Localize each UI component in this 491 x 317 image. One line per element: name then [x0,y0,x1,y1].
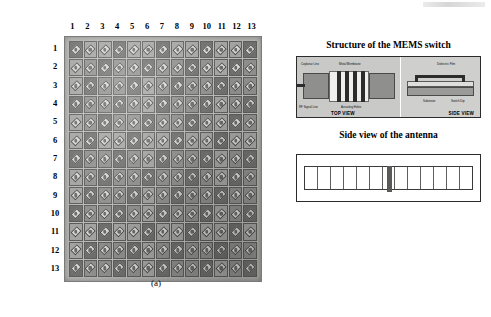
unit-cell [200,132,214,149]
unit-cell [113,205,127,222]
unit-cell [113,242,127,259]
antenna-element-tick [421,167,434,189]
column-number-strip: 1 2 3 4 5 6 7 8 9 10 11 12 13 [65,20,259,33]
mems-switch-figure: Coplanar Line Metal Membrane RF Signal L… [296,56,481,118]
unit-cell [243,150,257,167]
unit-cell [142,96,156,113]
unit-cell [69,169,83,186]
unit-cell [214,187,228,204]
antenna-element-tick [395,167,408,189]
unit-cell [69,187,83,204]
column-label: 3 [95,20,110,33]
unit-cell [69,132,83,149]
unit-cell [127,114,141,131]
unit-cell [142,132,156,149]
unit-cell [142,169,156,186]
unit-cell [243,187,257,204]
unit-cell [200,59,214,76]
unit-cell [127,96,141,113]
callout-actuating-holes: Actuating Holes [341,105,361,109]
unit-cell [200,187,214,204]
unit-cell [243,59,257,76]
unit-cell [127,260,141,277]
antenna-element-tick [408,167,421,189]
panel-a-reflectarray: 1 2 3 4 5 6 7 8 9 10 11 12 13 1 2 3 4 5 … [18,6,258,296]
unit-cell [113,114,127,131]
antenna-element-tick [331,167,344,189]
unit-cell [185,187,199,204]
unit-cell [69,150,83,167]
row-label: 1 [48,39,62,57]
row-number-strip: 1 2 3 4 5 6 7 8 9 10 11 12 13 [48,39,62,277]
column-label: 13 [244,20,259,33]
column-label: 2 [80,20,95,33]
unit-cell [84,96,98,113]
membrane-beam [415,75,465,78]
unit-cell [171,96,185,113]
unit-cell [98,96,112,113]
unit-cell [185,114,199,131]
unit-cell [156,41,170,58]
callout-switch-dip: Switch Dip [451,99,465,103]
unit-cell [200,223,214,240]
unit-cell [185,242,199,259]
unit-cell-grid [69,41,257,277]
unit-cell [142,187,156,204]
unit-cell [142,41,156,58]
antenna-element-tick [434,167,447,189]
unit-cell [84,114,98,131]
unit-cell [98,77,112,94]
unit-cell [69,223,83,240]
unit-cell [142,59,156,76]
unit-cell [98,169,112,186]
row-label: 6 [48,131,62,149]
unit-cell [200,77,214,94]
coplanar-line-pad-left [303,73,329,99]
column-label: 1 [65,20,80,33]
unit-cell [113,187,127,204]
unit-cell [113,223,127,240]
unit-cell [84,242,98,259]
row-label: 11 [48,222,62,240]
mems-figure-title: Structure of the MEMS switch [296,40,481,50]
unit-cell [156,187,170,204]
panel-a-caption: (a) [36,278,276,288]
unit-cell [69,59,83,76]
antenna-element-tick [318,167,331,189]
unit-cell [214,223,228,240]
unit-cell [156,132,170,149]
unit-cell [171,242,185,259]
unit-cell [229,242,243,259]
unit-cell [171,114,185,131]
unit-cell [229,260,243,277]
antenna-cross-section [304,166,473,190]
row-label: 4 [48,94,62,112]
unit-cell [84,77,98,94]
unit-cell [113,77,127,94]
unit-cell [229,150,243,167]
unit-cell [156,150,170,167]
unit-cell [98,41,112,58]
unit-cell [243,114,257,131]
unit-cell [200,242,214,259]
side-view-label: SIDE VIEW [448,111,474,116]
unit-cell [171,205,185,222]
unit-cell [200,41,214,58]
unit-cell [156,205,170,222]
antenna-side-view-figure [296,154,481,202]
unit-cell [113,150,127,167]
unit-cell [200,169,214,186]
row-label: 12 [48,240,62,258]
unit-cell [185,150,199,167]
unit-cell [229,187,243,204]
unit-cell [84,205,98,222]
unit-cell [69,41,83,58]
unit-cell [171,187,185,204]
unit-cell [113,132,127,149]
unit-cell [229,205,243,222]
unit-cell [142,242,156,259]
unit-cell [171,169,185,186]
signal-line-stub [297,84,305,87]
column-label: 4 [110,20,125,33]
unit-cell [142,260,156,277]
